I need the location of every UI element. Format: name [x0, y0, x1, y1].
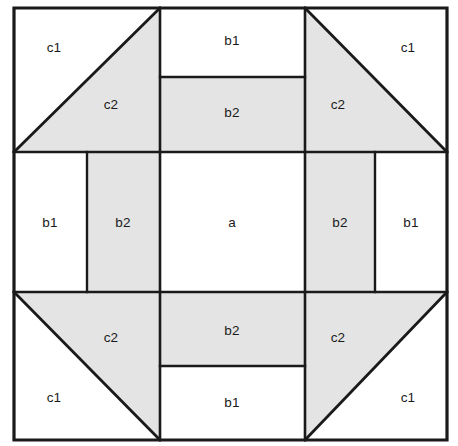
label-c2-bottom-left: c2 — [104, 330, 119, 345]
label-a-center: a — [228, 215, 236, 230]
label-b2-bottom: b2 — [224, 323, 239, 338]
label-c2-top-left: c2 — [104, 97, 119, 112]
label-c2-top-right: c2 — [331, 97, 346, 112]
label-c1-top-left: c1 — [47, 40, 62, 55]
label-b2-left: b2 — [115, 215, 130, 230]
label-c2-bottom-right: c2 — [331, 330, 346, 345]
label-b2-right: b2 — [332, 215, 347, 230]
label-b1-right: b1 — [403, 215, 418, 230]
diagram-canvas: c1c2b1b2c1c2b1b2ab2b1c2c1b2b1c2c1 — [0, 0, 458, 446]
dissection-diagram: c1c2b1b2c1c2b1b2ab2b1c2c1b2b1c2c1 — [0, 0, 458, 446]
label-b1-top: b1 — [224, 33, 239, 48]
label-b2-top: b2 — [224, 105, 239, 120]
label-c1-bottom-right: c1 — [401, 390, 416, 405]
label-c1-bottom-left: c1 — [47, 390, 62, 405]
label-b1-bottom: b1 — [224, 395, 239, 410]
label-c1-top-right: c1 — [401, 40, 416, 55]
label-b1-left: b1 — [42, 215, 57, 230]
